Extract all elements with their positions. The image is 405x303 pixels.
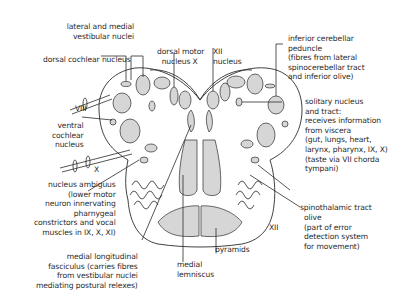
label-dorsal-cochlear-nucleus: dorsal cochlear nucleus bbox=[43, 55, 131, 65]
label-lateral-medial-vestibular-nuclei: lateral and medial vestibular nuclei bbox=[66, 22, 134, 41]
label-ventral-cochlear-nucleus: ventral cochlear nucleus bbox=[52, 121, 84, 150]
label-nerve-viii: VIII bbox=[75, 104, 87, 114]
nucleus-ambiguus-left bbox=[140, 157, 148, 163]
medulla-outline bbox=[99, 68, 302, 247]
icp-left bbox=[113, 93, 131, 113]
dorsal-motor-x-left bbox=[170, 87, 178, 105]
solitary-right bbox=[236, 98, 242, 106]
medial-lemniscus bbox=[179, 140, 197, 196]
label-nerve-x: X bbox=[94, 165, 99, 175]
olive-left bbox=[120, 119, 140, 143]
icp-right bbox=[268, 96, 284, 114]
label-pyramids: pyramids bbox=[215, 245, 250, 255]
inferior-olive-left bbox=[130, 181, 164, 209]
label-spinothalamic-tract: spinothalamic tract bbox=[300, 203, 372, 213]
label-olive: olive (part of error detection system fo… bbox=[304, 213, 368, 251]
inferior-olive-right bbox=[236, 181, 262, 209]
label-dorsal-motor-nucleus-x: dorsal motor nucleus X bbox=[157, 47, 204, 66]
label-inferior-cerebellar-peduncle: inferior cerebellar peduncle (fibres fro… bbox=[288, 34, 365, 82]
mlf bbox=[188, 110, 195, 132]
pyramids bbox=[158, 206, 199, 237]
label-nerve-xii: XII bbox=[269, 223, 278, 233]
dorsal-cochlear-left bbox=[121, 82, 131, 87]
vestibular-nucleus-left bbox=[136, 75, 150, 95]
label-medial-longitudinal-fasciculus: medial longitudinal fasciculus (carries … bbox=[36, 252, 138, 290]
xii-nucleus-right bbox=[207, 91, 219, 109]
label-xii-nucleus: XII nucleus bbox=[213, 47, 242, 66]
label-solitary-nucleus-and-tract: solitary nucleus and tract: receives inf… bbox=[305, 97, 388, 174]
label-medial-lemniscus: medial lemniscus bbox=[177, 260, 214, 279]
label-nucleus-ambiguus: nucleus ambiguus (lower motor neuron inn… bbox=[34, 180, 116, 238]
